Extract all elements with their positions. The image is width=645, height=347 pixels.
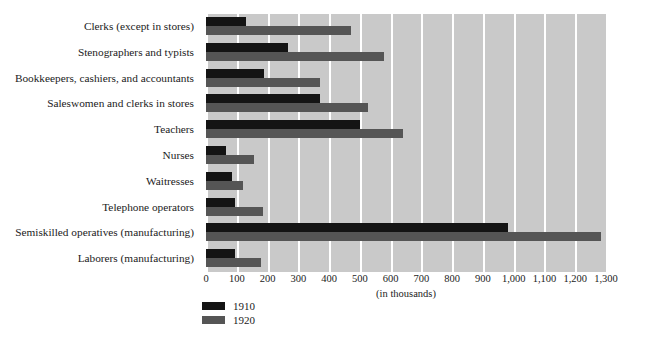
bar-1920 (206, 258, 261, 267)
chart-legend: 19101920 (202, 299, 322, 327)
legend-item-1920[interactable]: 1920 (202, 313, 322, 327)
bar-1920 (206, 155, 254, 164)
legend-swatch-icon (202, 302, 225, 310)
bar-chart: Clerks (except in stores)Stenographers a… (0, 0, 645, 347)
bar-group (206, 172, 606, 190)
bar-group (206, 146, 606, 164)
x-tick-label: 400 (321, 272, 337, 285)
category-label: Clerks (except in stores) (0, 20, 194, 32)
x-tick-label: 600 (383, 272, 399, 285)
x-tick-label: 700 (414, 272, 430, 285)
bar-1910 (206, 69, 264, 78)
bar-group (206, 249, 606, 267)
category-label: Bookkeepers, cashiers, and accountants (0, 72, 194, 84)
category-label: Waitresses (0, 175, 194, 187)
bar-1920 (206, 181, 243, 190)
bar-1920 (206, 207, 263, 216)
bar-group (206, 198, 606, 216)
bar-group (206, 120, 606, 138)
bar-1910 (206, 120, 360, 129)
bar-group (206, 43, 606, 61)
bar-1910 (206, 172, 232, 181)
legend-label: 1910 (233, 300, 255, 312)
bar-1920 (206, 26, 351, 35)
bar-group (206, 94, 606, 112)
category-label: Laborers (manufacturing) (0, 252, 194, 264)
bar-group (206, 223, 606, 241)
bar-group (206, 17, 606, 35)
category-label: Nurses (0, 149, 194, 161)
x-tick-label: 100 (229, 272, 245, 285)
category-label: Stenographers and typists (0, 46, 194, 58)
x-axis: 01002003004005006007008009001,0001,1001,… (206, 272, 606, 288)
plot-area (206, 14, 606, 272)
category-label: Saleswomen and clerks in stores (0, 97, 194, 109)
legend-item-1910[interactable]: 1910 (202, 299, 322, 313)
x-tick-label: 1,000 (502, 272, 526, 285)
bar-1910 (206, 94, 320, 103)
legend-label: 1920 (233, 314, 255, 326)
category-label: Semiskilled operatives (manufacturing) (0, 226, 194, 238)
x-tick-label: 0 (203, 272, 208, 285)
x-tick-label: 300 (290, 272, 306, 285)
bar-1920 (206, 129, 403, 138)
bar-1920 (206, 232, 601, 241)
x-tick-label: 1,100 (533, 272, 557, 285)
bar-1910 (206, 17, 246, 26)
bar-1910 (206, 249, 235, 258)
category-label: Telephone operators (0, 201, 194, 213)
category-axis: Clerks (except in stores)Stenographers a… (0, 14, 200, 272)
category-label: Teachers (0, 123, 194, 135)
legend-swatch-icon (202, 316, 225, 324)
bar-1910 (206, 43, 288, 52)
bar-group (206, 69, 606, 87)
bar-1910 (206, 146, 226, 155)
bar-1910 (206, 198, 235, 207)
x-tick-label: 500 (352, 272, 368, 285)
x-tick-label: 900 (475, 272, 491, 285)
bar-1920 (206, 78, 320, 87)
x-tick-label: 1,300 (594, 272, 618, 285)
gridline-1300 (606, 14, 608, 272)
x-tick-label: 800 (444, 272, 460, 285)
x-tick-label: 1,200 (563, 272, 587, 285)
x-tick-label: 200 (260, 272, 276, 285)
bar-1920 (206, 103, 368, 112)
bar-1910 (206, 223, 508, 232)
bar-1920 (206, 52, 384, 61)
x-axis-title: (in thousands) (206, 288, 606, 299)
